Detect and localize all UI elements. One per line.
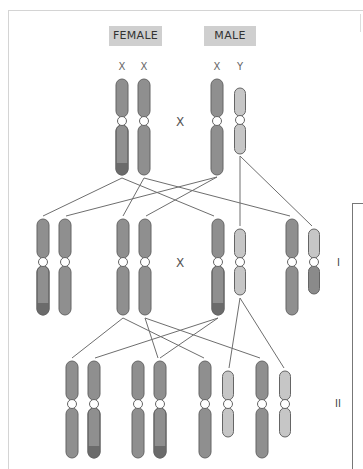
chromosome-label-y: Y bbox=[234, 61, 246, 72]
inheritance-line bbox=[145, 318, 260, 358]
inheritance-line bbox=[240, 156, 312, 226]
chromosome-label-x: X bbox=[211, 61, 223, 72]
male-label: MALE bbox=[204, 26, 256, 46]
y-chromosome bbox=[235, 229, 246, 295]
inheritance-line bbox=[72, 318, 123, 358]
y-chromosome bbox=[223, 371, 234, 437]
chromosome-label-x: X bbox=[116, 61, 128, 72]
x-chromosome bbox=[132, 361, 144, 458]
x-chromosome bbox=[37, 219, 49, 315]
x-chromosome bbox=[139, 219, 151, 315]
inheritance-line bbox=[240, 298, 284, 368]
female-label: FEMALE bbox=[109, 26, 162, 46]
generation-label-ii: II bbox=[335, 398, 341, 409]
inheritance-line bbox=[122, 178, 214, 216]
x-chromosome bbox=[66, 361, 78, 458]
x-chromosome bbox=[199, 361, 211, 458]
y-chromosome bbox=[280, 371, 291, 437]
chromosome-label-x: X bbox=[138, 61, 150, 72]
cross-symbol: X bbox=[173, 256, 187, 270]
inheritance-line bbox=[146, 177, 217, 216]
chromosome-diagram bbox=[0, 0, 363, 469]
x-chromosome bbox=[138, 79, 150, 175]
x-chromosome bbox=[88, 361, 100, 458]
x-chromosome bbox=[59, 219, 71, 315]
x-chromosome bbox=[256, 361, 268, 458]
inheritance-line bbox=[43, 178, 122, 216]
y-chromosome bbox=[235, 88, 246, 154]
inheritance-line bbox=[160, 318, 218, 358]
y-chromosome bbox=[309, 229, 320, 294]
x-chromosome bbox=[212, 219, 224, 315]
x-chromosome bbox=[286, 219, 298, 315]
x-chromosome bbox=[154, 361, 166, 458]
x-chromosome bbox=[116, 79, 128, 175]
x-chromosome bbox=[211, 79, 223, 175]
generation-label-i: I bbox=[337, 257, 340, 268]
diagram-frame: FEMALE MALE X X X Y X X I II bbox=[0, 0, 363, 469]
cross-symbol: X bbox=[173, 115, 187, 129]
inheritance-line bbox=[229, 298, 240, 368]
x-chromosome bbox=[117, 219, 129, 315]
